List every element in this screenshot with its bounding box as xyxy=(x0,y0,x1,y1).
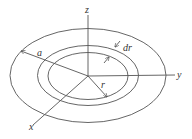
x-axis xyxy=(33,76,88,125)
dr-arrow-inner xyxy=(104,57,109,63)
x-axis-label: x xyxy=(28,121,34,132)
y-axis xyxy=(88,75,175,76)
dr-label: dr xyxy=(123,42,132,53)
dr-arrow-outer xyxy=(115,41,120,47)
z-axis-label: z xyxy=(84,4,89,15)
radius-a-label: a xyxy=(37,47,42,58)
disk-annulus-diagram: z y x a r dr xyxy=(0,0,192,139)
radius-r-label: r xyxy=(101,79,105,90)
radius-a-line xyxy=(21,51,88,76)
y-axis-label: y xyxy=(176,69,182,80)
